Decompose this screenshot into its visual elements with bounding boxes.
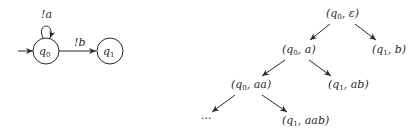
tree-node-n5: (q1, aab)	[282, 114, 329, 128]
tree-node-n1: (q0, a)	[282, 43, 316, 57]
edge-root-n2	[355, 24, 376, 40]
tree-ellipsis: ...	[201, 109, 212, 122]
state-q0-label: q0	[39, 45, 51, 59]
tree-node-n2: (q1, b)	[372, 43, 406, 57]
diagram-canvas: q0 !a !b q1 (q0, ε) (q0, a) (q1, b) (q0,…	[0, 0, 414, 137]
loop-label: !a	[41, 8, 52, 21]
computation-tree: (q0, ε) (q0, a) (q1, b) (q0, aa) (q1, ab…	[201, 7, 406, 128]
edge-root-n1	[310, 24, 330, 40]
edge-n3-ellipsis	[212, 95, 235, 112]
automaton: q0 !a !b q1	[18, 8, 123, 64]
tree-node-root: (q0, ε)	[326, 7, 359, 21]
edge-n3-n5	[262, 95, 287, 112]
transition-label: !b	[74, 36, 85, 49]
tree-node-n4: (q1, ab)	[328, 78, 369, 92]
edge-n1-n4	[309, 60, 331, 76]
state-q1-label: q1	[103, 45, 115, 59]
self-loop-q0	[41, 26, 51, 38]
edge-n1-n3	[262, 60, 285, 76]
tree-node-n3: (q0, aa)	[231, 78, 271, 92]
